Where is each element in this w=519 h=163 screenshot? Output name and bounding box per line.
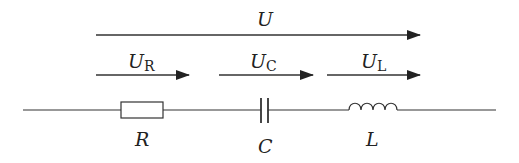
rlc-circuit-diagram: U UR UC UL R C L xyxy=(0,0,519,163)
resistor-label: R xyxy=(135,130,149,149)
capacitor-voltage-label: UC xyxy=(250,52,277,73)
total-voltage-label: U xyxy=(257,10,273,31)
resistor-voltage-label: UR xyxy=(128,52,155,73)
capacitor-symbol xyxy=(261,98,268,123)
inductor-symbol xyxy=(349,103,397,110)
inductor-voltage-label: UL xyxy=(361,52,386,73)
capacitor-label: C xyxy=(258,137,273,156)
resistor-symbol xyxy=(121,102,163,118)
inductor-label: L xyxy=(366,130,379,149)
